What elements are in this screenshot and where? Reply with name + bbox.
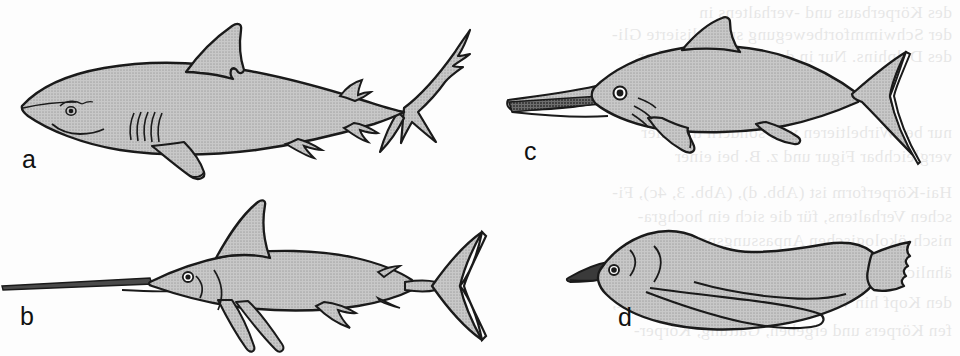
panel-b-swordfish: b <box>2 200 486 351</box>
panel-b-label: b <box>20 302 34 330</box>
shark-anal-fin <box>344 123 378 142</box>
ichthyosaur-body <box>592 46 860 132</box>
ichthyosaur-dorsal-fin <box>682 17 740 52</box>
swordfish-eye <box>183 272 193 282</box>
panel-c-ichthyosaur: c <box>507 17 920 165</box>
line-art-illustration: a <box>0 0 960 356</box>
penguin-webbed-foot <box>867 242 910 291</box>
shark-body <box>22 63 404 155</box>
ichthyosaur-lower-jaw <box>512 112 608 117</box>
penguin-body <box>598 231 880 329</box>
panel-d-penguin: d <box>567 231 910 331</box>
swordfish-dorsal-fin <box>216 200 270 258</box>
ichthyosaur-eye <box>614 87 627 100</box>
swordfish-rostrum <box>2 278 152 290</box>
swordfish-caudal-fin <box>432 232 482 340</box>
shark-pelvic-fin <box>286 139 322 158</box>
panel-c-label: c <box>524 137 537 165</box>
shark-second-dorsal-fin <box>340 80 371 101</box>
panel-a-label: a <box>22 145 36 173</box>
panel-d-label: d <box>618 303 632 331</box>
figure-plate: des Körperbaus und -verhaltens inder Sch… <box>0 0 960 356</box>
penguin-eye <box>609 265 619 275</box>
ichthyosaur-hind-paddle <box>756 122 800 144</box>
panel-a-shark: a <box>22 24 470 179</box>
shark-caudal-fin <box>401 30 470 143</box>
